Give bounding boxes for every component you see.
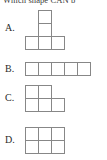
question-text: Which shape CAN b: [3, 0, 107, 5]
grid-cell: [38, 98, 52, 112]
option-c-label: C.: [5, 92, 14, 103]
grid-cell: [25, 127, 39, 141]
grid-cell: [51, 36, 65, 50]
option-d-shape: [25, 127, 69, 157]
grid-cell: [25, 140, 39, 154]
grid-cell: [38, 85, 52, 99]
option-a-shape: [25, 10, 83, 54]
answer-option-b[interactable]: B.: [0, 60, 107, 80]
option-b-label: B.: [5, 63, 14, 74]
grid-cell: [25, 98, 39, 112]
grid-cell: [51, 98, 65, 112]
answer-option-a[interactable]: A.: [0, 10, 107, 54]
grid-cell: [38, 36, 52, 50]
grid-cell: [64, 62, 78, 76]
grid-cell: [38, 10, 52, 24]
grid-cell: [51, 62, 65, 76]
answer-option-c[interactable]: C.: [0, 84, 107, 116]
grid-cell: [25, 62, 39, 76]
grid-cell: [38, 62, 52, 76]
grid-cell: [25, 36, 39, 50]
grid-cell: [51, 127, 65, 141]
grid-cell: [77, 62, 91, 76]
option-b-shape: [25, 62, 97, 78]
grid-cell: [38, 23, 52, 37]
grid-cell: [25, 85, 39, 99]
answer-option-d[interactable]: D.: [0, 126, 107, 158]
grid-cell: [38, 140, 52, 154]
grid-cell: [38, 127, 52, 141]
option-c-shape: [25, 85, 69, 115]
option-d-label: D.: [5, 134, 15, 145]
grid-cell: [51, 140, 65, 154]
option-a-label: A.: [5, 22, 15, 33]
